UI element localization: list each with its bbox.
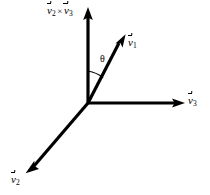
label-v2-cross-v3-subscript-b: 3 [69, 9, 73, 18]
label-theta: θ [100, 54, 105, 64]
label-v3-subscript: 3 [193, 99, 197, 108]
label-v2-cross-v3-subscript-a: 2 [52, 9, 56, 18]
label-v2-symbol: v [11, 174, 16, 185]
label-v1-symbol: v [128, 37, 133, 48]
label-v1-subscript: 1 [133, 41, 137, 50]
cross-product-icon: × [57, 6, 62, 16]
label-v2-subscript: 2 [16, 178, 20, 187]
label-v2: v2 [11, 174, 20, 187]
label-v2-cross-v3-symbol-b: v [64, 5, 69, 16]
label-v3: v3 [188, 95, 197, 108]
label-v1: v1 [128, 37, 137, 50]
vector-diagram-figure: v2×v3 v1 v3 v2 θ [0, 0, 210, 195]
vector-diagram-canvas [0, 0, 210, 195]
label-v3-symbol: v [188, 95, 193, 106]
label-v2-cross-v3-symbol-a: v [47, 5, 52, 16]
label-v2-cross-v3: v2×v3 [47, 5, 73, 18]
